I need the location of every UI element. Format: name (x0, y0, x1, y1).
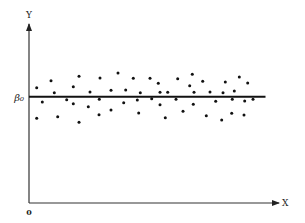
data-point (110, 89, 113, 92)
data-point (205, 114, 208, 117)
data-point (41, 101, 44, 104)
data-point (209, 91, 212, 94)
data-point (188, 84, 191, 87)
data-point (139, 91, 142, 94)
data-point (137, 112, 140, 115)
data-point (193, 91, 196, 94)
data-point (220, 119, 223, 122)
data-point (78, 121, 81, 124)
data-point (110, 109, 113, 112)
data-point (72, 85, 75, 88)
data-point (159, 103, 162, 106)
data-point (136, 99, 139, 102)
data-point (231, 98, 234, 101)
scatter-chart: Y X 0 β₀ (0, 0, 305, 223)
data-point (166, 91, 169, 94)
data-point (175, 98, 178, 101)
data-point (53, 91, 56, 94)
data-point (164, 116, 167, 119)
data-point (98, 113, 101, 116)
data-point (233, 90, 236, 93)
beta0-label: β₀ (13, 92, 24, 103)
data-point (65, 98, 68, 101)
x-axis-label: X (282, 198, 289, 208)
data-point (35, 86, 38, 89)
data-point (99, 77, 102, 80)
data-point (230, 112, 233, 115)
data-point (149, 77, 152, 80)
data-point (246, 82, 249, 85)
data-point (201, 80, 204, 83)
data-point (252, 98, 255, 101)
data-point (214, 100, 217, 103)
data-point (157, 82, 160, 85)
data-point (222, 91, 225, 94)
data-point (50, 79, 53, 82)
data-point (78, 75, 81, 78)
data-point (243, 114, 246, 117)
origin-label: 0 (26, 207, 32, 217)
data-point (124, 89, 127, 92)
data-point (89, 91, 92, 94)
data-point (150, 97, 153, 100)
data-point (159, 91, 162, 94)
data-point (132, 77, 135, 80)
data-point (122, 101, 125, 104)
data-point (98, 98, 101, 101)
data-point (35, 117, 38, 120)
data-point (238, 76, 241, 79)
data-point (243, 100, 246, 103)
data-point (56, 115, 59, 118)
data-point (191, 73, 194, 76)
data-point (72, 102, 75, 105)
data-point (117, 72, 120, 75)
data-point (192, 103, 195, 106)
data-point (224, 81, 227, 84)
y-axis-label: Y (25, 10, 33, 20)
axes (29, 24, 279, 203)
data-point (176, 77, 179, 80)
data-point (182, 110, 185, 113)
data-point (87, 105, 90, 108)
